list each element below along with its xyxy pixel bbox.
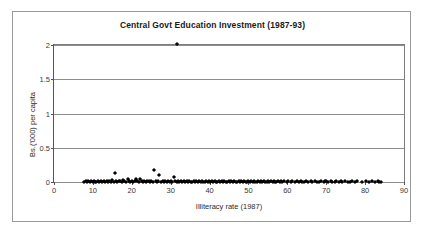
y-axis-title: Bs.('000) per capita [27,0,38,55]
y-tick-label: 1 [46,109,50,118]
data-point [157,173,161,177]
x-tick-label: 50 [244,186,252,195]
x-tick-label: 40 [205,186,213,195]
y-gridline [54,148,404,149]
y-tick-label: 0.5 [40,143,50,152]
y-gridline [54,114,404,115]
y-tick-mark [51,79,54,80]
x-tick-label: 20 [128,186,136,195]
x-tick-label: 0 [52,186,56,195]
data-point [379,179,383,183]
chart-frame: Central Govt Education Investment (1987-… [12,11,411,222]
y-gridline [54,45,404,46]
x-tick-label: 70 [322,186,330,195]
y-tick-mark [51,114,54,115]
x-tick-mark [54,182,55,185]
y-tick-mark [51,148,54,149]
x-axis-title: Illiteracy rate (1987) [53,202,405,211]
data-point [152,168,156,172]
data-point [113,171,117,175]
y-tick-label: 1.5 [40,75,50,84]
x-tick-label: 30 [166,186,174,195]
y-tick-label: 0 [46,178,50,187]
x-tick-label: 10 [89,186,97,195]
plot-area: 00.511.520102030405060708090 [53,44,405,183]
chart-title: Central Govt Education Investment (1987-… [13,20,412,30]
y-axis-title-label: Bs.('000) per capita [27,55,38,194]
y-gridline [54,79,404,80]
x-tick-mark [404,182,405,185]
y-tick-mark [51,45,54,46]
x-tick-label: 80 [361,186,369,195]
x-tick-label: 60 [283,186,291,195]
x-tick-label: 90 [400,186,408,195]
y-tick-label: 2 [46,41,50,50]
